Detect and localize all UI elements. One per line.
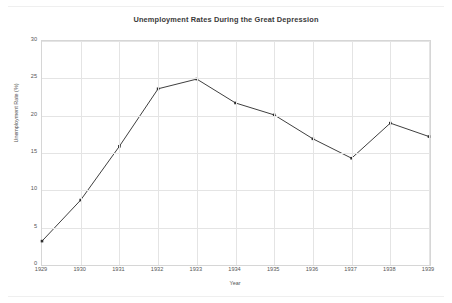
gridline-vertical	[236, 41, 237, 265]
x-axis-tick-label: 1939	[408, 267, 448, 273]
gridline-vertical	[197, 41, 198, 265]
x-axis-tick-label: 1936	[292, 267, 332, 273]
y-axis-tick-label: 30	[13, 37, 37, 43]
page-top-rule	[8, 6, 444, 7]
gridline-vertical	[158, 41, 159, 265]
x-axis-tick-label: 1929	[21, 267, 61, 273]
page-bottom-rule	[8, 296, 444, 297]
x-axis-tick-labels: 1929193019311932193319341935193619371938…	[41, 267, 431, 279]
x-axis-tick-label: 1935	[253, 267, 293, 273]
x-axis-title: Year	[41, 280, 429, 286]
y-axis-tick-label: 0	[13, 261, 37, 267]
x-axis-tick-label: 1933	[176, 267, 216, 273]
gridline-vertical	[119, 41, 120, 265]
gridline-vertical	[352, 41, 353, 265]
x-axis-tick-label: 1932	[137, 267, 177, 273]
x-axis-tick-label: 1938	[369, 267, 409, 273]
gridline-vertical	[313, 41, 314, 265]
chart-figure: Unemployment Rates During the Great Depr…	[0, 0, 452, 303]
gridline-vertical	[81, 41, 82, 265]
x-axis-tick-label: 1930	[60, 267, 100, 273]
data-point	[41, 240, 44, 243]
plot-area	[41, 40, 431, 266]
x-axis-tick-label: 1937	[331, 267, 371, 273]
gridline-vertical	[390, 41, 391, 265]
chart-title: Unemployment Rates During the Great Depr…	[0, 15, 452, 24]
x-axis-tick-label: 1931	[98, 267, 138, 273]
x-axis-tick-label: 1934	[215, 267, 255, 273]
y-axis-tick-label: 5	[13, 224, 37, 230]
y-axis-tick-label: 10	[13, 186, 37, 192]
y-axis-title: Unemployment Rate (%)	[13, 58, 19, 168]
gridline-vertical	[274, 41, 275, 265]
gridline-vertical	[429, 41, 430, 265]
